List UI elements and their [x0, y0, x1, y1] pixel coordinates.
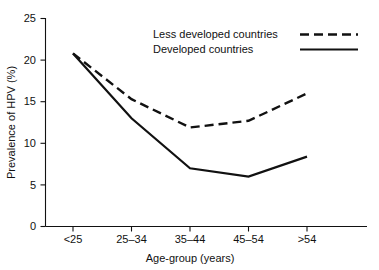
line-chart: 0 5 10 15 20 25 <25 25–34 35–44 45–54 >5…: [0, 0, 379, 270]
y-tick-label-15: 15: [24, 95, 36, 107]
x-tick-label-over-54: >54: [298, 233, 317, 245]
y-tick-label-20: 20: [24, 54, 36, 66]
series-less-developed-countries: [73, 53, 307, 127]
x-tick-label-under-25: <25: [64, 233, 83, 245]
legend-label-less-developed-countries: Less developed countries: [153, 28, 278, 40]
series-developed-countries: [73, 53, 307, 176]
legend: Less developed countries Developed count…: [153, 28, 358, 55]
y-tick-label-25: 25: [24, 12, 36, 24]
x-tick-label-35-44: 35–44: [175, 233, 206, 245]
y-tick-label-10: 10: [24, 137, 36, 149]
x-axis-title: Age-group (years): [146, 252, 235, 264]
legend-label-developed-countries: Developed countries: [153, 43, 254, 55]
y-tick-label-0: 0: [30, 220, 36, 232]
chart-figure: 0 5 10 15 20 25 <25 25–34 35–44 45–54 >5…: [0, 0, 379, 270]
x-tick-label-45-54: 45–54: [233, 233, 264, 245]
y-axis-title: Prevalence of HPV (%): [5, 66, 17, 179]
x-tick-label-25-34: 25–34: [116, 233, 147, 245]
y-tick-label-5: 5: [30, 179, 36, 191]
